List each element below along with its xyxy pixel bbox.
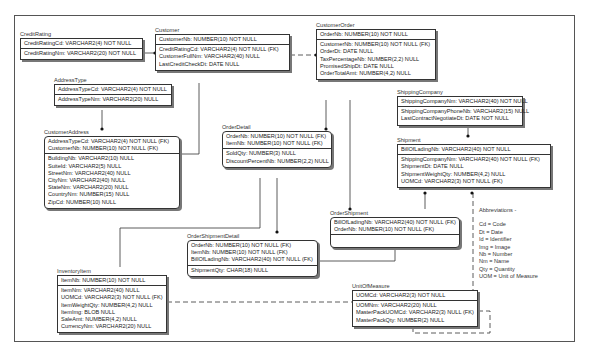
- pk-attribute: AddressTypeCd: VARCHAR2(4) NOT NULL: [58, 86, 168, 93]
- attribute: PromisedShipDt: DATE NULL: [320, 63, 432, 70]
- attribute: LastContractNegotiateDt: DATE NOT NULL: [401, 115, 519, 122]
- attribute: CityNm: VARCHAR2(40) NULL: [48, 177, 176, 184]
- attribute: SuiteId: VARCHAR2(5) NULL: [48, 163, 176, 170]
- attribute: OrderTotalAmt: NUMBER(4,2) NULL: [320, 70, 432, 77]
- abbreviation-item: Cd = Code: [479, 221, 538, 228]
- pk-attribute: CustomerNb: NUMBER(10) NOT NULL: [159, 36, 286, 43]
- entity-name: OrderDetail: [222, 124, 332, 131]
- pk-attribute: BillOfLadingNb: VARCHAR2(40) NOT NULL (F…: [191, 256, 314, 263]
- attribute: ShippingCompanyNm: VARCHAR2(40) NOT NULL…: [401, 156, 547, 163]
- attribute: ShipmentQty: CHAR(18) NULL: [191, 267, 314, 274]
- attribute: CountryNm: NUMBER(15) NULL: [48, 191, 176, 198]
- pk-attribute: AddressTypeCd: VARCHAR2(4) NOT NULL (FK): [48, 138, 176, 145]
- pk-attribute: OrderNb: NUMBER(10) NOT NULL (FK): [334, 226, 456, 233]
- attribute: UOMCd: VARCHAR2(3) NOT NULL (FK): [61, 294, 163, 301]
- attribute: DiscountPercentNb: NUMBER(2,2) NULL: [226, 158, 328, 165]
- pk-attribute: UOMCd: VARCHAR2(3) NOT NULL: [356, 292, 474, 299]
- pk-attribute: OrderNb: NUMBER(10) NOT NULL (FK): [191, 242, 314, 249]
- entity-customer-order[interactable]: CustomerOrder OrderNb: NUMBER(10) NOT NU…: [316, 22, 436, 80]
- attribute: AddressTypeNm: VARCHAR2(20) NULL: [58, 96, 168, 103]
- attribute: ZipCd: NUMBER(10) NULL: [48, 199, 176, 206]
- attribute: SoldQty: NUMBER(3) NULL: [226, 150, 328, 157]
- entity-name: AddressType: [54, 77, 172, 84]
- entity-order-detail[interactable]: OrderDetail OrderNb: NUMBER(10) NOT NULL…: [222, 124, 332, 168]
- entity-address-type[interactable]: AddressType AddressTypeCd: VARCHAR2(4) N…: [54, 77, 172, 106]
- attribute: ShipmentWeightQty: NUMBER(4,2) NULL: [401, 171, 547, 178]
- pk-attribute: ItemNb: NUMBER(10) NOT NULL (FK): [226, 140, 328, 147]
- entity-name: Customer: [155, 27, 290, 34]
- abbreviation-item: Qty = Quantity: [479, 266, 538, 273]
- entity-order-shipment-detail[interactable]: OrderShipmentDetail OrderNb: NUMBER(10) …: [187, 233, 318, 277]
- attribute: UOMCd: VARCHAR2(3) NOT NULL (FK): [401, 178, 547, 185]
- entity-name: OrderShipmentDetail: [187, 233, 318, 240]
- pk-attribute: BillOfLadingNb: VARCHAR2(40) NOT NULL (F…: [334, 219, 456, 226]
- attribute: CreditRatingCd: VARCHAR2(4) NOT NULL (FK…: [159, 46, 286, 53]
- entity-customer-address[interactable]: CustomerAddress AddressTypeCd: VARCHAR2(…: [44, 129, 180, 209]
- entity-name: UnitOfMeasure: [352, 283, 478, 290]
- entity-inventory-item[interactable]: InventoryItem ItemNb: NUMBER(10) NOT NUL…: [57, 268, 167, 333]
- entity-customer[interactable]: Customer CustomerNb: NUMBER(10) NOT NULL…: [155, 27, 290, 71]
- abbreviation-item: UOM = Unit of Measure: [479, 273, 538, 280]
- abbreviation-item: Dt = Date: [479, 229, 538, 236]
- attribute: CustomerNb: NUMBER(10) NOT NULL (FK): [320, 41, 432, 48]
- entity-name: CreditRating: [20, 31, 143, 38]
- attribute: ItemNm: VARCHAR2(40) NULL: [61, 287, 163, 294]
- abbreviation-item: Img = Image: [479, 244, 538, 251]
- attribute: UOMNm: VARCHAR2(20) NULL: [356, 302, 474, 309]
- attribute: MasterPackUOMCd: VARCHAR2(3) NULL (FK): [356, 309, 474, 316]
- attribute: CustomerFullNm: VARCHAR2(40) NULL: [159, 53, 286, 60]
- entity-name: ShippingCompany: [397, 89, 523, 96]
- abbreviations-legend: Abbreviations - Cd = Code Dt = Date Id =…: [479, 207, 538, 281]
- attribute: MasterPackQty: NUMBER(2) NULL: [356, 317, 474, 324]
- pk-attribute: OrderNb: NUMBER(10) NOT NULL: [320, 31, 432, 38]
- abbreviation-item: Nb = Number: [479, 251, 538, 258]
- entity-order-shipment[interactable]: OrderShipment BillOfLadingNb: VARCHAR2(4…: [330, 210, 460, 248]
- pk-attribute: ItemNb: NUMBER(10) NOT NULL (FK): [191, 249, 314, 256]
- attribute: StreetNm: VARCHAR2(40) NULL: [48, 170, 176, 177]
- attribute: SaleAmt: NUMBER(4,2) NULL: [61, 316, 163, 323]
- pk-attribute: OrderNb: NUMBER(10) NOT NULL (FK): [226, 133, 328, 140]
- attribute: ShipmentDt: DATE NULL: [401, 163, 547, 170]
- entity-credit-rating[interactable]: CreditRating CreditRatingCd: VARCHAR2(4)…: [20, 31, 143, 60]
- attribute: BuildingNb: VARCHAR2(10) NULL: [48, 155, 176, 162]
- pk-attribute: CustomerNb: NUMBER(10) NOT NULL (FK): [48, 145, 176, 152]
- attribute: ItemWeightQty: NUMBER(4,2) NULL: [61, 302, 163, 309]
- attribute: ShippingCompanyPhoneNb: VARCHAR2(15) NUL…: [401, 108, 519, 115]
- pk-attribute: CreditRatingCd: VARCHAR2(4) NOT NULL: [24, 40, 139, 47]
- attribute: StateNm: VARCHAR2(20) NULL: [48, 184, 176, 191]
- pk-attribute: BillOfLadingNb: VARCHAR2(40) NOT NULL: [401, 146, 547, 153]
- entity-name: CustomerOrder: [316, 22, 436, 29]
- entity-name: CustomerAddress: [44, 129, 180, 136]
- entity-shipment[interactable]: Shipment BillOfLadingNb: VARCHAR2(40) NO…: [397, 137, 551, 188]
- attribute: LastCreditCheckDt: DATE NULL: [159, 61, 286, 68]
- attribute: TaxPercentageNb: NUMBER(2,2) NULL: [320, 56, 432, 63]
- entity-name: Shipment: [397, 137, 551, 144]
- abbreviation-item: Nm = Name: [479, 258, 538, 265]
- entity-shipping-company[interactable]: ShippingCompany ShippingCompanyNm: VARCH…: [397, 89, 523, 126]
- attribute: OrderDt: DATE NULL: [320, 48, 432, 55]
- abbreviations-title: Abbreviations -: [479, 207, 538, 214]
- attribute: ItemImg: BLOB NULL: [61, 309, 163, 316]
- entity-unit-of-measure[interactable]: UnitOfMeasure UOMCd: VARCHAR2(3) NOT NUL…: [352, 283, 478, 327]
- abbreviation-item: Id = Identifier: [479, 236, 538, 243]
- entity-name: InventoryItem: [57, 268, 167, 275]
- pk-attribute: ShippingCompanyNm: VARCHAR2(40) NOT NULL: [401, 98, 519, 105]
- attribute: CurrencyNm: VARCHAR2(20) NULL: [61, 323, 163, 330]
- entity-name: OrderShipment: [330, 210, 460, 217]
- pk-attribute: ItemNb: NUMBER(10) NOT NULL: [61, 277, 163, 284]
- attribute: CreditRatingNm: VARCHAR2(20) NOT NULL: [24, 50, 139, 57]
